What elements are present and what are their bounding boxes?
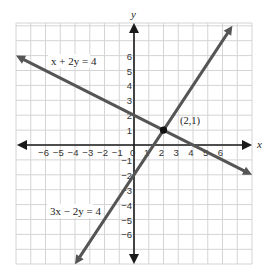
equation-label-2: 3x − 2y = 4: [50, 205, 101, 217]
y-tick-label: −6: [121, 229, 132, 240]
coordinate-graph: x y −6−5−4−3−2−10123456 654321−1−2−3−4−5…: [0, 0, 270, 277]
y-tick-label: 3: [127, 95, 132, 106]
y-tick-label: 1: [127, 125, 132, 136]
y-tick-label: −4: [121, 200, 132, 211]
y-tick-label: 4: [127, 80, 132, 91]
x-tick-label: −6: [38, 147, 49, 158]
x-tick-label: −5: [53, 147, 64, 158]
x-tick-label: −3: [82, 147, 93, 158]
y-tick-label: −1: [121, 155, 132, 166]
x-axis-label: x: [256, 138, 262, 150]
y-axis-up-arrow-icon: [129, 23, 139, 33]
x-tick-label: 3: [174, 147, 179, 158]
x-axis-left-arrow-icon: [17, 140, 27, 150]
x-axis-right-arrow-icon: [242, 140, 252, 150]
intersection-label: (2,1): [180, 115, 201, 127]
x-tick-label: 2: [159, 147, 164, 158]
intersection-point: [160, 127, 167, 134]
x-tick-label: −4: [68, 147, 79, 158]
y-tick-label: 6: [127, 51, 132, 62]
y-tick-label: 5: [127, 66, 132, 77]
x-tick-label: −2: [97, 147, 108, 158]
x-tick-label: 4: [188, 147, 193, 158]
y-axis-label: y: [130, 8, 136, 20]
y-tick-label: −5: [121, 215, 132, 226]
y-axis-down-arrow-icon: [129, 254, 139, 264]
equation-label-1: x + 2y = 4: [51, 55, 97, 67]
